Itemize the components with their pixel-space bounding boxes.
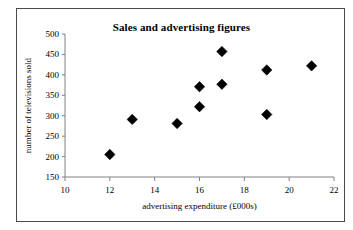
x-tick-label: 10 [61, 185, 71, 195]
chart-frame: Sales and advertising figures 1502002503… [16, 8, 345, 222]
y-tick-label: 450 [46, 49, 60, 59]
data-point-marker [217, 79, 227, 89]
y-tick-label: 200 [46, 152, 60, 162]
x-tick-label: 18 [240, 185, 250, 195]
data-point-marker [217, 46, 227, 56]
x-tick-label: 22 [330, 185, 339, 195]
x-tick-label: 14 [150, 185, 160, 195]
y-tick-label: 350 [46, 90, 60, 100]
data-point-marker [262, 65, 272, 75]
scatter-plot: 150200250300350400450500 10121416182022 … [17, 9, 346, 223]
data-point-marker [194, 82, 204, 92]
y-axis-title: number of televisions sold [23, 57, 33, 153]
y-tick-label: 500 [46, 29, 60, 39]
data-point-marker [262, 109, 272, 119]
data-point-marker [105, 149, 115, 159]
data-point-marker [127, 114, 137, 124]
data-points [105, 46, 317, 159]
y-tick-label: 250 [46, 131, 60, 141]
chart-figure: Sales and advertising figures 1502002503… [0, 0, 353, 230]
data-point-marker [194, 102, 204, 112]
y-axis: 150200250300350400450500 [46, 29, 66, 182]
x-axis: 10121416182022 [61, 177, 339, 195]
x-tick-label: 12 [105, 185, 114, 195]
y-tick-label: 400 [46, 70, 60, 80]
y-tick-label: 150 [46, 172, 60, 182]
x-tick-label: 20 [285, 185, 295, 195]
x-axis-title: advertising expenditure (£000s) [142, 201, 256, 211]
data-point-marker [306, 61, 316, 71]
data-point-marker [172, 118, 182, 128]
y-tick-label: 300 [46, 111, 60, 121]
x-tick-label: 16 [195, 185, 205, 195]
